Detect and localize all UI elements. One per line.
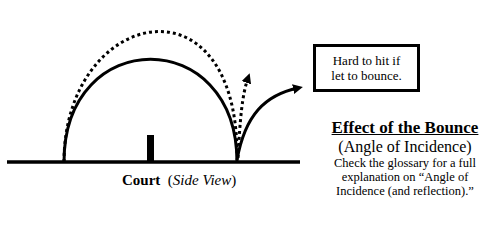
court-label: Court (Side View)	[122, 172, 236, 189]
solid-bounce-arrow	[237, 88, 298, 160]
effect-title: Effect of the Bounce	[312, 118, 498, 138]
callout-box: Hard to hit if let to bounce.	[313, 44, 420, 92]
court-label-main: Court	[122, 172, 160, 188]
callout-line-1: Hard to hit if	[333, 53, 401, 68]
effect-subtitle: (Angle of Incidence)	[312, 138, 498, 156]
effect-note-line-2: explanation on “Angle of	[312, 170, 498, 184]
effect-note-line-1: Check the glossary for a full	[312, 156, 498, 170]
effect-caption: Effect of the Bounce (Angle of Incidence…	[312, 118, 498, 198]
court-label-qualifier: Side View	[173, 172, 231, 188]
callout-line-2: let to bounce.	[331, 68, 401, 83]
effect-note-line-3: Incidence (and reflection).”	[312, 184, 498, 198]
net	[147, 135, 154, 162]
